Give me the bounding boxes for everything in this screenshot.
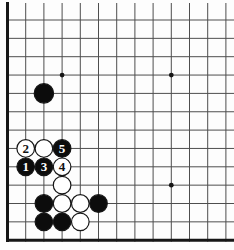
stone-black-stone [35,213,53,231]
move-4-label: 4 [59,159,66,174]
stone-white-stone [72,195,90,213]
stone-white-stone [53,176,71,194]
move-1-label: 1 [22,159,29,174]
star-point [169,73,174,78]
stone-white-stone [35,140,53,158]
stone-white-stone [53,195,71,213]
star-point [60,73,65,78]
stone-black-stone [34,84,53,103]
go-diagram-page: 25134 [0,0,234,250]
move-3-label: 3 [41,159,48,174]
stone-black-stone [35,195,53,213]
go-board-svg: 25134 [0,0,234,250]
move-5-label: 5 [59,141,66,156]
stone-white-stone [72,213,90,231]
move-2-label: 2 [22,141,29,156]
stone-black-stone [53,213,71,231]
stone-black-stone [90,195,108,213]
star-point [169,183,174,188]
